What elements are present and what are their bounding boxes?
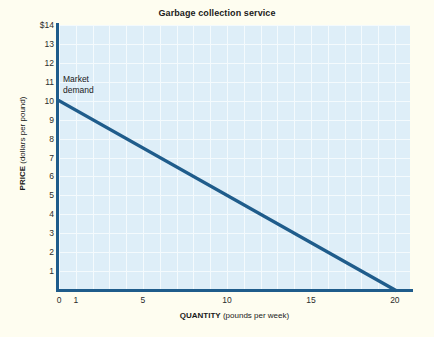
x-axis-title: QUANTITY (pounds per week) — [59, 311, 410, 320]
market-demand-line — [59, 101, 395, 290]
demand-curve-layer — [0, 0, 434, 337]
figure-container: Garbage collection service $141312111098… — [0, 0, 434, 337]
x-axis-title-strong: QUANTITY — [180, 311, 221, 320]
market-demand-annotation: Market demand — [63, 74, 94, 96]
y-axis-title: PRICE (dollars per pound) — [18, 64, 27, 224]
y-axis-title-strong: PRICE — [18, 166, 27, 190]
x-axis-title-rest: (pounds per week) — [221, 311, 289, 320]
y-axis-title-rest: (dollars per pound) — [18, 97, 27, 166]
